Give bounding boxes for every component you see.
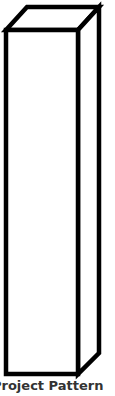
prism-front-face [6, 30, 78, 374]
diagram-caption: Project Pattern [0, 378, 115, 393]
rectangular-prism-icon [0, 0, 115, 380]
prism-right-face [78, 7, 99, 374]
